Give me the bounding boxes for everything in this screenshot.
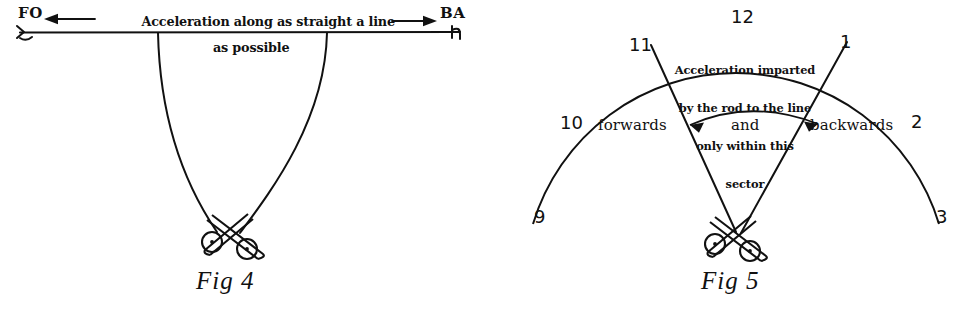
fig5-sector-double-arrow-icon: [689, 111, 820, 133]
fig4-panel: Acceleration along as straight a line as…: [0, 0, 500, 319]
figure-page: Acceleration along as straight a line as…: [0, 0, 972, 319]
fig4-artwork: [0, 0, 500, 319]
fig5-crossed-rods-icon: [705, 216, 767, 261]
fig4-crossed-rods-icon: [202, 214, 264, 259]
fig4-left-arrow-icon: [44, 14, 95, 24]
fig5-panel: [500, 0, 972, 319]
fig4-left-sweep-curve: [158, 33, 217, 232]
fig5-sector-line-1: [741, 42, 847, 233]
fig4-right-sweep-curve: [240, 33, 327, 233]
fig5-artwork: [500, 0, 972, 319]
fig5-clock-arc: [533, 73, 939, 224]
fig4-right-arrow-icon: [392, 16, 437, 26]
fig4-horizontal-line: [20, 32, 460, 33]
